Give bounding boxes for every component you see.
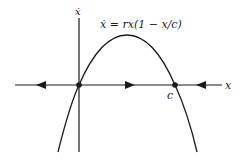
- equation-label: ẋ = rx(1 − x/c): [100, 18, 182, 31]
- arrow-left-icon: [36, 81, 46, 89]
- fixed-point-origin: [76, 82, 82, 88]
- arrow-left-icon: [196, 81, 206, 89]
- phase-diagram: ẋ = rx(1 − x/c) ẋ x c: [0, 0, 245, 162]
- arrow-right-icon: [125, 81, 135, 89]
- horizontal-axis-label: x: [225, 79, 232, 92]
- vertical-axis-label: ẋ: [75, 6, 81, 17]
- fixed-point-c-label: c: [167, 89, 173, 102]
- fixed-point-c: [172, 82, 178, 88]
